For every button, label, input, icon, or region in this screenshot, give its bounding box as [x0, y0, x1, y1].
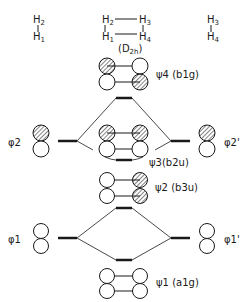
psi2-symmetry: (b3u) [171, 182, 198, 193]
phi1-left-label: φ1 [8, 235, 21, 245]
mo-diagram [0, 0, 248, 302]
psi1-label: ψ1 (a1g) [156, 278, 199, 288]
phi2-left-label: φ2 [8, 138, 21, 148]
psi1-symmetry: (a1g) [172, 277, 199, 288]
psi2-label: ψ2 (b3u) [155, 183, 198, 193]
psi4-symmetry: (b1g) [172, 69, 199, 80]
psi1-name: ψ1 [156, 277, 169, 288]
psi4-name: ψ4 [156, 69, 169, 80]
phi2-right-label: φ2' [224, 138, 240, 148]
phi1-right-label: φ1' [224, 235, 240, 245]
psi3-name: ψ3 [149, 157, 162, 168]
psi3-symmetry: (b2u) [162, 157, 189, 168]
psi3-label: ψ3(b2u) [149, 158, 189, 168]
psi4-label: ψ4 (b1g) [156, 70, 199, 80]
psi2-name: ψ2 [155, 182, 168, 193]
